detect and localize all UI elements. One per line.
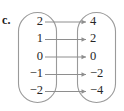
range-value-1: 2 bbox=[90, 31, 96, 45]
mapping-arrow-2-to-4 bbox=[45, 20, 86, 25]
domain-value-2: 0 bbox=[37, 49, 43, 63]
mapping-arrow-neg1-to-neg2 bbox=[45, 72, 86, 77]
mapping-arrow-0-to-0 bbox=[45, 55, 86, 60]
range-value-4: −4 bbox=[90, 83, 104, 97]
range-value-0: 4 bbox=[90, 14, 97, 28]
range-value-2: 0 bbox=[90, 49, 96, 63]
mapping-diagram-svg: 2 1 0 −1 −2 4 2 0 −2 −4 bbox=[0, 0, 124, 111]
domain-value-4: −2 bbox=[30, 83, 43, 97]
mapping-arrow-1-to-2 bbox=[45, 37, 86, 42]
domain-value-1: 1 bbox=[37, 31, 43, 45]
mapping-diagram-figure: c. 2 1 0 bbox=[0, 0, 124, 111]
domain-value-0: 2 bbox=[37, 14, 43, 28]
range-value-3: −2 bbox=[90, 66, 103, 80]
domain-value-3: −1 bbox=[30, 66, 43, 80]
